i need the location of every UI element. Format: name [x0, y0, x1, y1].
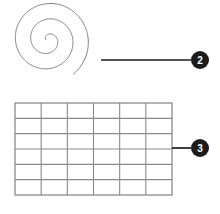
technical-figure: 2 3	[0, 0, 220, 214]
grid-group	[15, 103, 172, 195]
badge-label-3: 3	[197, 143, 203, 154]
badge-label-2: 2	[197, 55, 203, 66]
figure-canvas: 2 3	[0, 0, 220, 214]
